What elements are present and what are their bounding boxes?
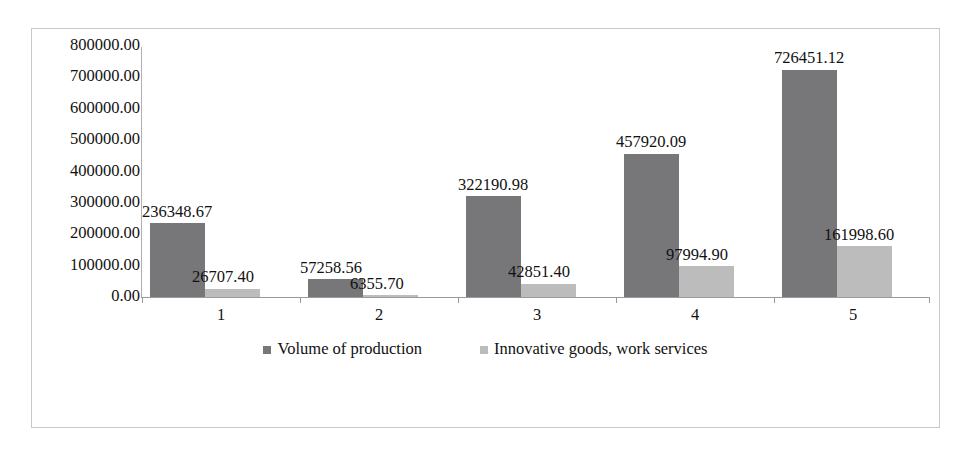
bar-volume-of-production[interactable] (466, 196, 521, 297)
x-tick-label: 4 (616, 307, 774, 324)
bar-value-label: 97994.90 (666, 247, 728, 264)
plot-area: 236348.67 26707.40 57258.56 6355.70 3221… (142, 47, 930, 297)
bar-group: 57258.56 6355.70 (300, 47, 458, 297)
bar-group: 236348.67 26707.40 (142, 47, 300, 297)
bar-group: 457920.09 97994.90 (616, 47, 774, 297)
bar-value-label: 161998.60 (824, 227, 894, 244)
x-tick-label: 1 (142, 307, 300, 324)
legend-item-volume-of-production[interactable]: Volume of production (263, 341, 422, 358)
bar-value-label: 6355.70 (350, 276, 404, 293)
x-tick-label: 5 (774, 307, 932, 324)
legend-item-label: Innovative goods, work services (494, 341, 708, 358)
y-tick-label: 300000.00 (32, 194, 140, 211)
x-axis-tick (929, 298, 930, 303)
bar-value-label: 26707.40 (192, 269, 254, 286)
y-tick-label: 800000.00 (32, 37, 140, 54)
bar-value-label: 236348.67 (142, 204, 212, 221)
chart-frame: 800000.00 700000.00 600000.00 500000.00 … (31, 28, 940, 428)
bar-value-label: 726451.12 (774, 50, 844, 67)
legend-item-innovative-goods[interactable]: Innovative goods, work services (480, 341, 708, 358)
x-tick-label: 3 (458, 307, 616, 324)
y-tick-label: 200000.00 (32, 225, 140, 242)
x-axis-tick (300, 298, 301, 303)
legend-swatch-icon (480, 346, 488, 354)
bar-group: 322190.98 42851.40 (458, 47, 616, 297)
bar-value-label: 322190.98 (458, 177, 528, 194)
bar-volume-of-production[interactable] (782, 70, 837, 297)
y-tick-label: 100000.00 (32, 257, 140, 274)
bar-value-label: 42851.40 (508, 264, 570, 281)
plot-wrapper: 800000.00 700000.00 600000.00 500000.00 … (32, 29, 939, 427)
y-tick-label: 400000.00 (32, 163, 140, 180)
x-axis-tick (142, 298, 143, 303)
bar-value-label: 457920.09 (616, 134, 686, 151)
bar-innovative-goods[interactable] (205, 289, 260, 297)
x-axis-tick (774, 298, 775, 303)
x-axis: 1 2 3 4 5 (142, 307, 930, 333)
x-axis-line (141, 297, 930, 298)
bar-group: 726451.12 161998.60 (774, 47, 932, 297)
y-tick-label: 0.00 (32, 288, 140, 305)
y-tick-label: 600000.00 (32, 100, 140, 117)
bar-innovative-goods[interactable] (521, 284, 576, 297)
y-tick-label: 500000.00 (32, 131, 140, 148)
bar-volume-of-production[interactable] (624, 154, 679, 297)
bar-innovative-goods[interactable] (679, 266, 734, 297)
y-axis: 800000.00 700000.00 600000.00 500000.00 … (32, 37, 140, 297)
x-axis-tick (616, 298, 617, 303)
x-tick-label: 2 (300, 307, 458, 324)
bar-innovative-goods[interactable] (363, 295, 418, 297)
y-tick-label: 700000.00 (32, 68, 140, 85)
x-axis-tick (458, 298, 459, 303)
chart-legend: Volume of production Innovative goods, w… (32, 341, 939, 358)
legend-swatch-icon (263, 346, 271, 354)
legend-item-label: Volume of production (277, 341, 422, 358)
bar-innovative-goods[interactable] (837, 246, 892, 297)
